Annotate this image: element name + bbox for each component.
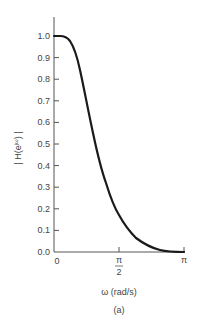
x-axis-label: ω (rad/s)	[101, 287, 137, 297]
y-tick-0.2: 0.2	[37, 204, 50, 214]
y-tick-0.1: 0.1	[37, 225, 50, 235]
y-axis-label: | H(ejω) |	[13, 131, 23, 164]
y-tick-0.3: 0.3	[37, 182, 50, 192]
y-tick-labels: 0.0 0.1 0.2 0.3 0.4 0.5 0.6 0.7 0.8 0.9 …	[37, 31, 50, 257]
y-tick-0.7: 0.7	[37, 96, 50, 106]
y-tick-0.0: 0.0	[37, 247, 50, 257]
x-tick-pi-half-num: π	[116, 255, 122, 265]
y-tick-0.6: 0.6	[37, 117, 50, 127]
chart-svg: 0.0 0.1 0.2 0.3 0.4 0.5 0.6 0.7 0.8 0.9 …	[0, 0, 197, 328]
x-tick-0: 0	[54, 256, 59, 266]
y-tick-0.9: 0.9	[37, 53, 50, 63]
x-tick-pi: π	[181, 255, 187, 265]
x-tick-pi-half-den: 2	[116, 267, 121, 277]
y-tick-1.0: 1.0	[37, 31, 50, 41]
y-ticks	[54, 36, 59, 230]
y-tick-0.8: 0.8	[37, 74, 50, 84]
figure-caption: (a)	[114, 305, 125, 315]
magnitude-response-curve	[54, 36, 184, 252]
y-tick-0.5: 0.5	[37, 139, 50, 149]
y-tick-0.4: 0.4	[37, 161, 50, 171]
